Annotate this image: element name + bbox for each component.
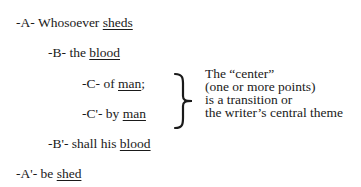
line-a: -A- Whosoever sheds <box>16 15 133 31</box>
marker: -B'- <box>48 136 68 151</box>
right-brace-icon <box>172 72 196 130</box>
key-word: shed <box>57 166 82 181</box>
key-word: blood <box>89 45 120 60</box>
center-explanation-note: The “center” (one or more points) is a t… <box>205 67 343 119</box>
line-b: -B- the blood <box>48 45 120 61</box>
marker: -C'- <box>82 106 102 121</box>
key-word: blood <box>120 136 151 151</box>
line-c: -C- of man; <box>82 76 145 92</box>
text: of <box>103 76 114 91</box>
key-word: man <box>123 106 146 121</box>
marker: -A'- <box>16 166 37 181</box>
text: Whosoever <box>38 15 99 30</box>
text: be <box>41 166 54 181</box>
note-line: the writer’s central theme <box>205 106 343 119</box>
text: shall his <box>72 136 117 151</box>
marker: -A- <box>16 15 35 30</box>
marker: -B- <box>48 45 66 60</box>
marker: -C- <box>82 76 100 91</box>
line-b-prime: -B'- shall his blood <box>48 136 151 152</box>
key-word: sheds <box>103 15 133 30</box>
text: by <box>106 106 120 121</box>
suffix: ; <box>141 76 145 91</box>
text: the <box>69 45 86 60</box>
line-a-prime: -A'- be shed <box>16 166 81 182</box>
line-c-prime: -C'- by man <box>82 106 146 122</box>
key-word: man <box>118 76 141 91</box>
